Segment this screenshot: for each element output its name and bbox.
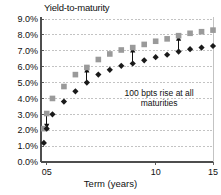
data-point-base xyxy=(210,43,216,49)
chart-figure: Yield-to-maturity 0.0%1.0%2.0%3.0%4.0%5.… xyxy=(0,0,221,195)
data-point-shifted xyxy=(118,47,124,53)
x-tick-label: 05 xyxy=(42,167,52,177)
data-point-base xyxy=(84,79,90,85)
x-tick-label: 10 xyxy=(151,167,161,177)
data-point-shifted xyxy=(73,72,79,78)
y-tick-label: 8.0% xyxy=(17,30,38,40)
data-point-shifted xyxy=(44,111,50,117)
data-point-base xyxy=(72,88,78,94)
y-tick-label: 1.0% xyxy=(17,141,38,151)
chart-plot-area: 0.0%1.0%2.0%3.0%4.0%5.0%6.0%7.0%8.0%9.0%… xyxy=(0,0,221,195)
data-point-shifted xyxy=(164,36,170,42)
data-point-shifted xyxy=(107,51,113,57)
data-point-base xyxy=(130,60,136,66)
data-point-base xyxy=(164,52,170,58)
y-tick-label: 9.0% xyxy=(17,14,38,24)
data-point-base xyxy=(176,48,182,54)
x-tick-labels-group: 051015 xyxy=(42,162,218,177)
data-point-shifted xyxy=(210,27,216,33)
data-point-base xyxy=(118,63,124,69)
data-point-shifted xyxy=(176,33,182,39)
chart-annotation-group: 100 bpts rise at allmaturities xyxy=(125,88,194,108)
chart-annotation: 100 bpts rise at all xyxy=(125,88,194,98)
data-point-base xyxy=(61,99,67,105)
data-point-shifted xyxy=(130,45,136,51)
data-point-shifted xyxy=(153,38,159,44)
y-tick-label: 4.0% xyxy=(17,94,38,104)
data-point-base xyxy=(187,46,193,52)
y-tick-label: 6.0% xyxy=(17,62,38,72)
data-point-shifted xyxy=(50,96,56,102)
data-point-base xyxy=(49,111,55,117)
data-point-shifted xyxy=(96,57,102,63)
data-point-base xyxy=(141,57,147,63)
y-tick-label: 2.0% xyxy=(17,125,38,135)
data-point-base xyxy=(41,140,47,146)
chart-annotation: maturities xyxy=(141,98,178,108)
data-point-shifted xyxy=(187,31,193,37)
data-point-shifted xyxy=(61,84,67,90)
data-point-shifted xyxy=(141,42,147,48)
series-shifted-markers xyxy=(41,27,216,131)
x-tick-label: 15 xyxy=(208,167,218,177)
y-tick-label: 7.0% xyxy=(17,46,38,56)
y-tick-label: 5.0% xyxy=(17,78,38,88)
y-tick-labels-group: 0.0%1.0%2.0%3.0%4.0%5.0%6.0%7.0%8.0%9.0% xyxy=(17,14,44,167)
y-tick-label: 0.0% xyxy=(17,157,38,167)
data-point-shifted xyxy=(199,29,205,35)
y-tick-label: 3.0% xyxy=(17,110,38,120)
data-point-base xyxy=(198,45,204,51)
data-point-shifted xyxy=(84,65,90,71)
data-point-base xyxy=(107,67,113,73)
data-point-base xyxy=(95,72,101,78)
x-axis-label: Term (years) xyxy=(0,178,221,189)
data-point-base xyxy=(153,54,159,60)
